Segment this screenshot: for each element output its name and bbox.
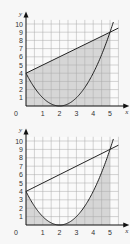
chart-top-shaded-under-line: 01234512345678910xy <box>0 0 130 122</box>
chart-svg: 01234512345678910xy <box>0 0 130 122</box>
svg-text:4: 4 <box>91 110 95 117</box>
svg-text:0: 0 <box>14 229 18 236</box>
svg-text:2: 2 <box>19 205 23 212</box>
svg-text:3: 3 <box>19 196 23 203</box>
svg-text:1: 1 <box>41 110 45 117</box>
svg-text:2: 2 <box>58 110 62 117</box>
svg-text:4: 4 <box>91 229 95 236</box>
x-axis-label: x <box>124 227 129 235</box>
x-axis-label: x <box>124 108 129 116</box>
svg-text:1: 1 <box>41 229 45 236</box>
svg-text:0: 0 <box>14 110 18 117</box>
svg-text:3: 3 <box>74 110 78 117</box>
svg-text:6: 6 <box>19 53 23 60</box>
svg-text:3: 3 <box>74 229 78 236</box>
svg-text:7: 7 <box>19 163 23 170</box>
svg-text:8: 8 <box>19 154 23 161</box>
y-axis-arrow-icon <box>24 12 29 18</box>
svg-text:2: 2 <box>58 229 62 236</box>
svg-text:4: 4 <box>19 70 23 77</box>
svg-text:8: 8 <box>19 37 23 44</box>
svg-text:6: 6 <box>19 171 23 178</box>
svg-text:10: 10 <box>15 21 23 28</box>
svg-text:2: 2 <box>19 86 23 93</box>
svg-text:5: 5 <box>19 62 23 69</box>
svg-text:1: 1 <box>19 213 23 220</box>
svg-text:9: 9 <box>19 146 23 153</box>
svg-text:7: 7 <box>19 45 23 52</box>
svg-text:3: 3 <box>19 78 23 85</box>
svg-text:5: 5 <box>108 110 112 117</box>
svg-text:5: 5 <box>19 180 23 187</box>
y-axis-label: y <box>18 126 23 134</box>
chart-bottom-shaded-under-parabola: 01234512345678910xy <box>0 122 130 244</box>
y-axis-label: y <box>18 10 23 18</box>
svg-text:9: 9 <box>19 29 23 36</box>
y-axis-arrow-icon <box>24 128 29 134</box>
chart-svg: 01234512345678910xy <box>0 122 130 244</box>
svg-text:10: 10 <box>15 138 23 145</box>
svg-text:4: 4 <box>19 188 23 195</box>
svg-text:1: 1 <box>19 94 23 101</box>
svg-text:5: 5 <box>108 229 112 236</box>
